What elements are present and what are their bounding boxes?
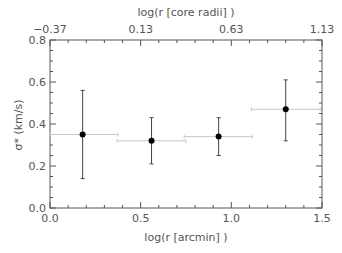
data-point [149,138,155,144]
axis-ticks [50,40,322,208]
top-x-tick-label: 0.63 [219,23,244,36]
y-tick-label: 0.6 [29,76,47,89]
top-x-tick-label: 1.13 [310,23,335,36]
y-axis-title: σ* (km/s) [12,99,25,150]
top-x-axis-title: log(r [core radii] ) [137,6,234,19]
data-point [80,132,86,138]
tick-labels: 0.00.51.01.5−0.370.130.631.130.00.20.40.… [29,23,335,225]
x-tick-label: 1.5 [313,212,331,225]
plot-border [50,40,322,208]
data-point [216,134,222,140]
data-point [283,106,289,112]
top-x-tick-label: 0.13 [128,23,153,36]
y-tick-label: 0.8 [29,34,47,47]
x-tick-label: 1.0 [223,212,241,225]
y-tick-label: 0.2 [29,160,47,173]
plot-frame [50,40,322,208]
error-bars [81,80,288,179]
x-tick-label: 0.5 [132,212,150,225]
bin-lines [50,107,320,143]
x-axis-title: log(r [arcmin] ) [144,231,227,244]
y-tick-label: 0.0 [29,202,47,215]
y-tick-label: 0.4 [29,118,47,131]
chart: 0.00.51.01.5−0.370.130.631.130.00.20.40.… [0,0,342,253]
